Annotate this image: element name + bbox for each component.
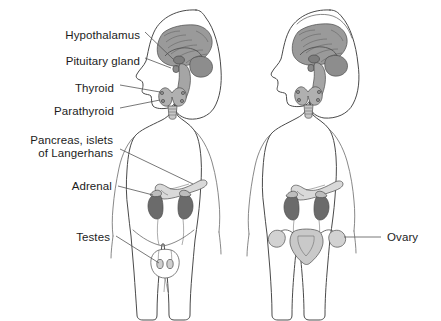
label-ovary: Ovary — [387, 231, 418, 244]
anatomy-illustration: .body-outline { fill:#ffffff; stroke:#4a… — [0, 0, 441, 321]
female-hypothalamus — [309, 55, 320, 63]
label-parathyroid: Parathyroid — [54, 105, 114, 118]
female-figure — [247, 10, 359, 320]
female-pituitary-gland — [308, 64, 314, 71]
label-thyroid: Thyroid — [75, 82, 114, 95]
label-adrenal: Adrenal — [72, 180, 112, 193]
female-cerebellum — [325, 55, 348, 76]
endocrine-system-diagram: .body-outline { fill:#ffffff; stroke:#4a… — [0, 0, 441, 321]
label-pituitary-gland: Pituitary gland — [66, 55, 140, 68]
label-testes: Testes — [76, 231, 110, 244]
label-pancreas-islets-line1: Pancreas, islets — [30, 134, 113, 147]
male-hypothalamus — [174, 56, 185, 64]
male-cerebellum — [190, 56, 213, 77]
label-hypothalamus: Hypothalamus — [65, 29, 140, 42]
label-pancreas-islets-line2: of Langerhans — [38, 147, 113, 160]
